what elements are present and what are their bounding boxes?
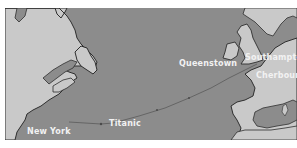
route-waypoint-marker [188, 97, 190, 99]
label-queenstown: Queenstown [179, 60, 237, 68]
route-map: New York Titanic Queenstown Southampton … [5, 8, 297, 140]
titanic-route-line [69, 64, 257, 124]
route-waypoint-marker [156, 109, 158, 111]
label-cherbourg: Cherbourg [256, 72, 297, 80]
ireland [223, 42, 239, 60]
label-new-york: New York [27, 128, 71, 136]
newfoundland [75, 46, 97, 74]
map-canvas [5, 8, 297, 140]
label-southampton: Southampton [245, 54, 297, 62]
titanic-sinking-marker [100, 123, 102, 125]
label-titanic: Titanic [109, 120, 141, 128]
